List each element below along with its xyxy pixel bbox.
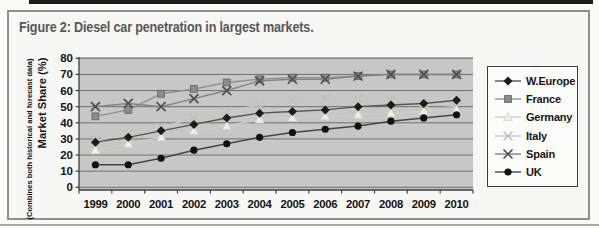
y-axis-subtitle: (Combines both historical and forecast d… [25, 58, 34, 220]
svg-text:2009: 2009 [412, 198, 436, 210]
svg-text:70: 70 [60, 68, 73, 80]
x-marker-icon [495, 148, 521, 160]
square-marker-icon [495, 93, 521, 105]
diamond-marker-icon [495, 75, 521, 87]
svg-text:2008: 2008 [379, 198, 403, 210]
svg-text:2003: 2003 [215, 198, 239, 210]
svg-text:60: 60 [60, 85, 73, 97]
x-marker-icon [495, 130, 521, 142]
svg-text:2005: 2005 [280, 198, 304, 210]
y-axis-labels: 01020304050607080 [60, 52, 73, 193]
svg-text:2002: 2002 [182, 198, 206, 210]
svg-text:50: 50 [60, 101, 73, 113]
svg-text:40: 40 [60, 117, 73, 129]
legend-item-spain: Spain [495, 148, 571, 161]
svg-text:2000: 2000 [116, 198, 140, 210]
chart-legend: W.EuropeFranceGermanyItalySpainUK [487, 66, 578, 187]
legend-label: France [526, 93, 561, 105]
legend-item-uk: UK [495, 166, 571, 179]
legend-label: Spain [526, 148, 555, 160]
svg-text:2006: 2006 [313, 198, 337, 210]
svg-text:0: 0 [67, 181, 73, 193]
svg-text:2001: 2001 [149, 198, 173, 210]
svg-text:80: 80 [60, 52, 73, 64]
svg-text:2004: 2004 [248, 198, 273, 210]
legend-item-france: France [495, 92, 571, 105]
legend-label: W.Europe [526, 75, 575, 87]
plot-area [79, 57, 473, 190]
svg-text:2010: 2010 [445, 198, 469, 210]
legend-label: Italy [526, 130, 547, 142]
triangle-marker-icon [495, 111, 521, 123]
legend-label: UK [526, 166, 542, 178]
page-bottom-scan-line [0, 224, 599, 226]
legend-item-italy: Italy [495, 129, 571, 142]
svg-text:10: 10 [60, 165, 73, 177]
svg-text:1999: 1999 [83, 198, 107, 210]
y-axis-title: Market Share (%) [36, 57, 48, 148]
legend-item-germany: Germany [495, 111, 571, 124]
svg-text:2007: 2007 [346, 198, 370, 210]
svg-text:30: 30 [60, 133, 73, 145]
legend-label: Germany [526, 111, 572, 123]
svg-text:20: 20 [60, 149, 73, 161]
circle-marker-icon [495, 166, 521, 178]
x-axis-labels: 1999200020012002200320042005200620072008… [83, 198, 468, 210]
legend-item-weurope: W.Europe [495, 74, 571, 87]
